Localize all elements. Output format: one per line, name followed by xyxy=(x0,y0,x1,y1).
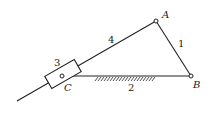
joint-C xyxy=(60,74,64,78)
mechanism-diagram: A B C 1 2 3 4 xyxy=(0,0,213,113)
ground-hatching xyxy=(95,77,155,81)
label-link-2: 2 xyxy=(128,82,134,93)
label-link-1: 1 xyxy=(178,38,184,49)
link-4 xyxy=(17,21,156,101)
label-link-4: 4 xyxy=(108,34,114,45)
label-link-3: 3 xyxy=(54,57,60,68)
joint-A xyxy=(154,19,158,23)
link-1 xyxy=(156,21,191,76)
diagram-svg: A B C 1 2 3 4 xyxy=(0,0,213,113)
label-B: B xyxy=(192,79,200,90)
joint-B xyxy=(189,74,193,78)
label-A: A xyxy=(161,9,169,20)
label-C: C xyxy=(64,82,72,93)
